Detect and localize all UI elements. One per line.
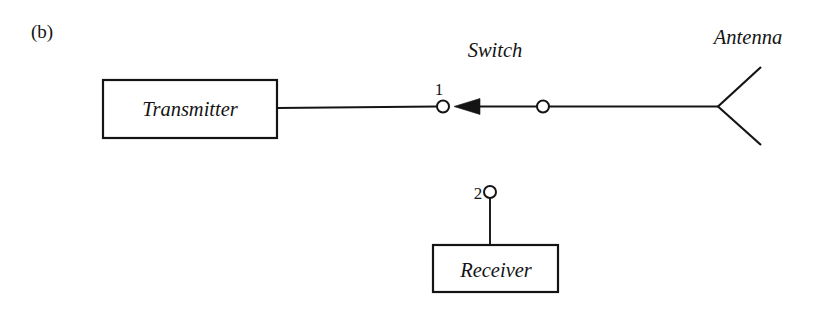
switch-label: Switch [468,39,523,61]
wire-transmitter-to-terminal-1 [277,107,437,109]
terminal-1-label: 1 [435,80,444,99]
switch-blade-arrow-icon [454,99,480,115]
antenna-lower-arm-icon [718,107,761,146]
antenna-label: Antenna [712,26,782,48]
terminal-2-label: 2 [474,184,483,203]
panel-label: (b) [31,21,53,43]
antenna-upper-arm-icon [718,67,761,107]
figure-panel-b: (b) Transmitter Switch 1 Antenna 2 Recei… [0,0,816,312]
terminal-2-node [484,186,496,198]
schematic-canvas: (b) Transmitter Switch 1 Antenna 2 Recei… [0,0,816,312]
transmitter-label: Transmitter [142,98,239,120]
switch-pivot-node [537,101,549,113]
receiver-label: Receiver [459,259,533,281]
terminal-1-node [437,101,449,113]
